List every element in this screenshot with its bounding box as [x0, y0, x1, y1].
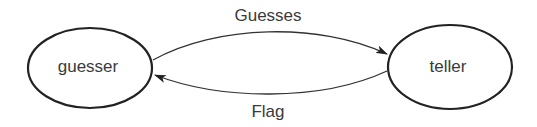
flag-edge	[155, 71, 387, 94]
guesses-label: Guesses	[234, 6, 301, 26]
guesses-edge	[153, 32, 387, 60]
diagram-canvas: guesser teller Guesses Flag	[0, 0, 537, 127]
guesser-label: guesser	[58, 57, 118, 77]
flag-label: Flag	[251, 102, 284, 122]
teller-label: teller	[430, 57, 467, 77]
